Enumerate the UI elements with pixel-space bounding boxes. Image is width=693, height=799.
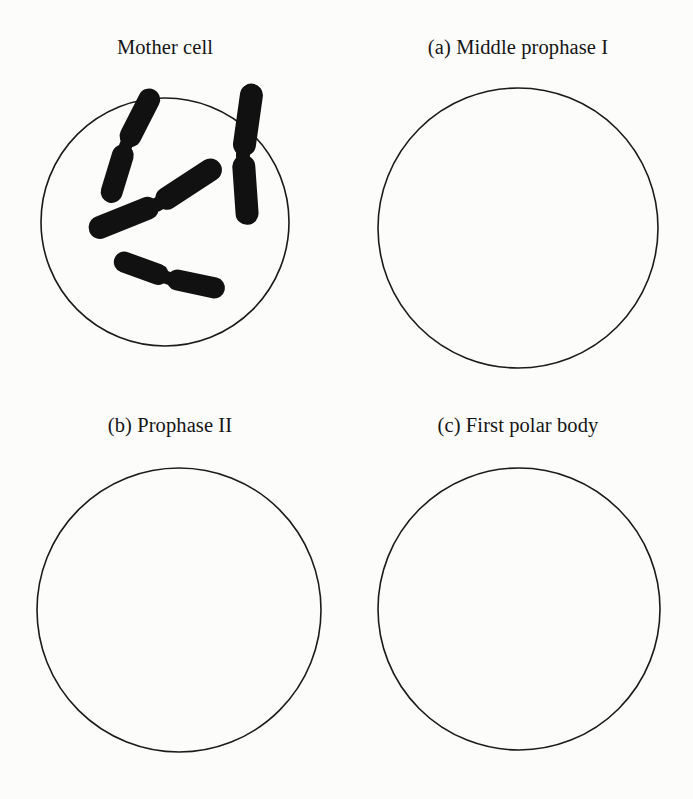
first-polar-body-drawing[interactable] <box>348 414 688 774</box>
figure-root: Mother cell <box>0 0 693 799</box>
panel-prophase-ii: (b) Prophase II <box>0 414 340 774</box>
chromatid-arm-lower <box>232 154 260 225</box>
prophase-ii-drawing[interactable] <box>0 414 340 774</box>
panel-mother-cell: Mother cell <box>0 36 330 396</box>
panel-first-polar-body: (c) First polar body <box>348 414 688 774</box>
panel-middle-prophase-i: (a) Middle prophase I <box>348 36 688 396</box>
cell-outline-prophase-ii <box>37 468 321 752</box>
cell-outline-first-polar-body <box>378 468 660 750</box>
chromatid-arm-lower <box>85 193 162 242</box>
cell-outline-middle-prophase-i <box>378 88 658 368</box>
mother-cell-drawing <box>0 36 330 396</box>
chromosome-right <box>231 82 264 226</box>
centromere <box>236 148 250 162</box>
chromatid-arm-left <box>165 268 227 301</box>
chromatid-arm-upper <box>231 82 264 157</box>
middle-prophase-i-drawing[interactable] <box>348 36 688 396</box>
chromatid-arm-lower <box>98 142 137 206</box>
chromosome-bottom <box>111 249 227 301</box>
